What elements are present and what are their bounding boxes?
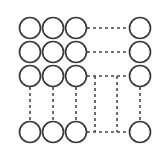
node-circle xyxy=(43,42,64,63)
node-circle xyxy=(43,66,64,87)
node-circle xyxy=(20,18,41,39)
node-circle xyxy=(130,18,151,39)
node-circle xyxy=(43,18,64,39)
node-circle xyxy=(20,122,41,143)
diagram-canvas xyxy=(0,0,157,157)
node-circle xyxy=(66,66,87,87)
node-circle xyxy=(20,42,41,63)
node-circle xyxy=(66,42,87,63)
node-circle xyxy=(43,122,64,143)
node-circle xyxy=(130,122,151,143)
node-circle xyxy=(66,122,87,143)
node-circle xyxy=(66,18,87,39)
node-circle xyxy=(130,66,151,87)
node-circle xyxy=(20,66,41,87)
node-layer xyxy=(20,18,151,143)
node-link-diagram xyxy=(0,0,157,157)
node-circle xyxy=(130,42,151,63)
